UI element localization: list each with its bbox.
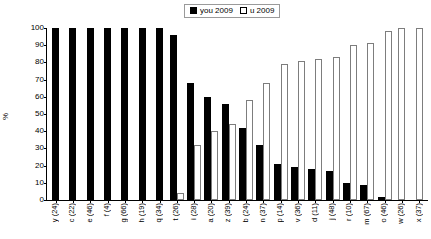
y-axis-tick-0: 0 — [18, 196, 44, 204]
x-axis-tick-label: n (37) — [258, 203, 267, 223]
y-axis-tickmark — [44, 183, 47, 184]
bar-you-2009 — [343, 183, 350, 200]
y-axis-tickmark — [44, 28, 47, 29]
x-axis-tick-labels: y (24)c (22)e (46)f (4)g (66)h (19)q (34… — [46, 203, 427, 239]
y-axis-tick-70: 70 — [18, 76, 44, 84]
bar-u-2009 — [263, 83, 270, 200]
y-axis-tickmark — [44, 45, 47, 46]
y-axis-tick-80: 80 — [18, 58, 44, 66]
bar-you-2009 — [104, 28, 111, 200]
bar-group — [186, 28, 203, 200]
x-axis-label-cell: n (37) — [254, 203, 271, 239]
bar-group — [237, 28, 254, 200]
x-axis-tick-label: a (20) — [206, 203, 215, 223]
y-axis-tick-50: 50 — [18, 110, 44, 118]
x-axis-tick-label: i (28) — [189, 203, 198, 220]
bar-group — [64, 28, 81, 200]
y-axis-tickmark — [44, 62, 47, 63]
y-axis-tickmark — [44, 97, 47, 98]
x-axis-label-cell: j (48) — [323, 203, 340, 239]
x-axis-label-cell: m (67) — [358, 203, 375, 239]
bar-u-2009 — [246, 100, 253, 200]
bar-group — [203, 28, 220, 200]
bar-u-2009 — [177, 193, 184, 200]
legend-swatch-filled-square-icon — [190, 7, 197, 14]
y-axis-tickmark — [44, 200, 47, 201]
x-axis-tick-label: f (4) — [102, 203, 111, 216]
bar-you-2009 — [87, 28, 94, 200]
bar-you-2009 — [204, 97, 211, 200]
x-axis-label-cell: r (10) — [340, 203, 357, 239]
bar-u-2009 — [350, 45, 357, 200]
bar-group — [82, 28, 99, 200]
x-axis-label-cell: b (24) — [236, 203, 253, 239]
x-axis-label-cell: x (37) — [410, 203, 427, 239]
bar-u-2009 — [281, 64, 288, 200]
bar-you-2009 — [308, 169, 315, 200]
x-axis-tick-label: w (26) — [396, 203, 405, 224]
x-axis-label-cell: d (11) — [306, 203, 323, 239]
x-axis-label-cell: a (20) — [202, 203, 219, 239]
bar-group — [47, 28, 64, 200]
bar-u-2009 — [416, 28, 423, 200]
bar-you-2009 — [139, 28, 146, 200]
y-axis-tickmark — [44, 80, 47, 81]
x-axis-tick-label: q (34) — [154, 203, 163, 223]
bar-you-2009 — [274, 164, 281, 200]
bar-group — [393, 28, 410, 200]
x-axis-tick-label: b (24) — [241, 203, 250, 223]
bar-you-2009 — [222, 104, 229, 200]
x-axis-tick-label: e (46) — [85, 203, 94, 223]
x-axis-label-cell: w (26) — [392, 203, 409, 239]
x-axis-label-cell: c (22) — [63, 203, 80, 239]
bar-u-2009 — [229, 124, 236, 200]
bar-group — [411, 28, 428, 200]
x-axis-tick-label: y (24) — [50, 203, 59, 222]
bar-u-2009 — [211, 131, 218, 200]
bar-group — [99, 28, 116, 200]
legend-label-u-2009: u 2009 — [250, 6, 274, 15]
bar-group — [168, 28, 185, 200]
bar-u-2009 — [333, 57, 340, 200]
y-axis-tick-20: 20 — [18, 162, 44, 170]
bar-you-2009 — [256, 145, 263, 200]
y-axis-tick-90: 90 — [18, 41, 44, 49]
bar-you-2009 — [239, 128, 246, 200]
x-axis-label-cell: v (36) — [288, 203, 305, 239]
y-axis-tick-100: 100 — [18, 24, 44, 32]
y-axis-tick-40: 40 — [18, 127, 44, 135]
x-axis-tick-label: r (10) — [344, 203, 353, 221]
x-axis-label-cell: i (28) — [185, 203, 202, 239]
bar-u-2009 — [315, 59, 322, 200]
y-axis-tickmark — [44, 148, 47, 149]
bar-series-container — [47, 28, 428, 200]
legend-swatch-open-square-icon — [240, 7, 247, 14]
bar-group — [151, 28, 168, 200]
y-axis-tick-30: 30 — [18, 144, 44, 152]
bar-group — [116, 28, 133, 200]
bar-you-2009 — [69, 28, 76, 200]
legend-label-you-2009: you 2009 — [200, 6, 233, 15]
x-axis-label-cell: o (46) — [375, 203, 392, 239]
x-axis-tick-label: z (39) — [223, 203, 232, 222]
x-axis-label-cell: h (19) — [133, 203, 150, 239]
x-axis-tick-label: c (22) — [67, 203, 76, 222]
x-axis-tick-label: v (36) — [293, 203, 302, 222]
bar-you-2009 — [360, 185, 367, 200]
bar-you-2009 — [326, 171, 333, 200]
bar-you-2009 — [121, 28, 128, 200]
y-axis-tick-60: 60 — [18, 93, 44, 101]
x-axis-tick-label: x (37) — [414, 203, 423, 222]
bar-you-2009 — [156, 28, 163, 200]
bar-group — [324, 28, 341, 200]
bar-you-2009 — [170, 35, 177, 200]
x-axis-label-cell: g (66) — [115, 203, 132, 239]
bar-group — [307, 28, 324, 200]
bar-you-2009 — [291, 167, 298, 200]
x-axis-label-cell: e (46) — [81, 203, 98, 239]
x-axis-tick-label: t (26) — [171, 203, 180, 221]
bar-group — [134, 28, 151, 200]
y-axis-tick-10: 10 — [18, 179, 44, 187]
y-axis-tickmark — [44, 166, 47, 167]
x-axis-tick-label: m (67) — [362, 203, 371, 225]
